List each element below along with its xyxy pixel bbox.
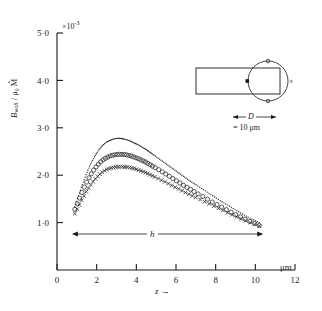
dot [88, 167, 89, 168]
y-tick-label-0: 1·0 [37, 218, 49, 228]
y-axis-label-subscript: wall [13, 102, 19, 112]
inset-rectangle [196, 68, 280, 94]
dot [163, 162, 164, 163]
dot [98, 149, 99, 150]
dot [87, 170, 88, 171]
dot [188, 180, 189, 181]
inset-equals-label: = 10 μm [233, 123, 260, 132]
dot [180, 174, 181, 175]
open-circle-marker [94, 165, 98, 169]
dot [199, 187, 200, 188]
open-circle-marker [80, 190, 84, 194]
open-circle-marker [192, 189, 196, 193]
x-tick-label-5: 10 [251, 275, 261, 285]
cross-marker [82, 194, 86, 198]
inset-cross-marker: × [289, 77, 293, 86]
dot [92, 160, 93, 161]
dot [160, 160, 161, 161]
dot [158, 158, 159, 159]
dot [94, 156, 95, 157]
open-circle-marker [73, 207, 77, 211]
dot [172, 168, 173, 169]
dot [91, 161, 92, 162]
inset-d-label: D [246, 112, 256, 121]
cross-marker [87, 186, 91, 190]
dot [227, 204, 228, 205]
dot [240, 212, 241, 213]
inset-d-arrow-left [233, 115, 238, 119]
dot [159, 159, 160, 160]
dot [205, 190, 206, 191]
dot [101, 146, 102, 147]
dot [166, 164, 167, 165]
dot [201, 188, 202, 189]
dot [90, 163, 91, 164]
cross-marker [84, 190, 88, 194]
dot [214, 196, 215, 197]
annotation-group [72, 232, 263, 237]
h-annotation-label: h [147, 229, 158, 239]
dot [190, 181, 191, 182]
inset-node-center [246, 79, 250, 83]
cross-marker [75, 207, 79, 211]
dot [218, 199, 219, 200]
dot [238, 211, 239, 212]
dot [194, 183, 195, 184]
open-circle-marker [96, 162, 100, 166]
dot [82, 184, 83, 185]
y-axis-exponent: ×10-3 [62, 20, 80, 31]
cross-marker [91, 180, 95, 184]
x-axis-label: z → [155, 286, 168, 296]
x-tick-label-2: 4 [134, 275, 139, 285]
dot [234, 209, 235, 210]
dot [162, 161, 163, 162]
dot [89, 165, 90, 166]
dot [177, 172, 178, 173]
dot [216, 198, 217, 199]
x-tick-label-6: 12 [291, 275, 300, 285]
dot [233, 208, 234, 209]
cross-marker [180, 189, 184, 193]
cross-marker [207, 202, 211, 206]
y-tick-label-4: 5·0 [37, 28, 49, 38]
dot [153, 155, 154, 156]
dot [181, 175, 182, 176]
y-axis-label: Bwall / μ₀ M̂ [10, 102, 19, 118]
dot [236, 210, 237, 211]
dot [167, 165, 168, 166]
x-tick-label-3: 6 [174, 275, 179, 285]
dot [225, 203, 226, 204]
dot [173, 169, 174, 170]
open-circle-marker [220, 205, 224, 209]
dot [247, 216, 248, 217]
dot [156, 157, 157, 158]
h-arrow-head-left [72, 232, 78, 237]
dot [84, 179, 85, 180]
dot [100, 147, 101, 148]
dot [257, 221, 258, 222]
dot [212, 195, 213, 196]
dot [176, 171, 177, 172]
y-tick-label-3: 4·0 [37, 76, 49, 86]
dot [185, 178, 186, 179]
dot [86, 172, 87, 173]
dot [220, 200, 221, 201]
dot [231, 207, 232, 208]
dot [195, 184, 196, 185]
dot [184, 177, 185, 178]
dot [229, 206, 230, 207]
cross-marker [89, 183, 93, 187]
inset-d-arrow-right [271, 115, 276, 119]
x-tick-label-4: 8 [213, 275, 218, 285]
dot [253, 219, 254, 220]
dot [96, 153, 97, 154]
cross-marker [198, 198, 202, 202]
x-axis-unit: μm [280, 262, 292, 272]
dot [85, 174, 86, 175]
cross-marker [230, 213, 234, 217]
dot [165, 163, 166, 164]
dot [203, 189, 204, 190]
x-axis-label-text: z [155, 286, 159, 296]
open-circle-marker [82, 185, 86, 189]
dot [242, 213, 243, 214]
